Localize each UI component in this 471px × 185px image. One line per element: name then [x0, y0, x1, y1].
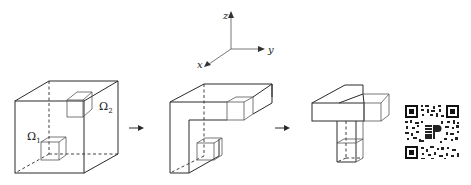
cube-top-face [15, 81, 118, 101]
omega-2-region [67, 92, 92, 117]
arrow-2: → [0, 0, 290, 131]
stage-full-cube: Ω2 Ω1 [15, 81, 118, 173]
stage-reduced-channel [312, 85, 389, 162]
qr-center-logo-icon [424, 124, 442, 140]
channel-inner-edge [189, 120, 227, 173]
hidden-edge [15, 154, 49, 173]
slab-top-face [312, 85, 363, 103]
y-axis-label: y [267, 44, 274, 55]
z-axis-label: z [222, 10, 229, 21]
qr-finder-top-right [446, 105, 459, 118]
z-axis-arrowhead-icon [228, 11, 234, 18]
arrow-1: → [0, 0, 144, 131]
omega-2-region [363, 94, 389, 121]
stage-l-shaped-channel [170, 84, 272, 173]
hidden-edge [170, 156, 204, 173]
coordinate-axes: z y x [197, 10, 274, 70]
qr-code[interactable] [403, 103, 461, 161]
qr-finder-top-left [405, 105, 418, 118]
qr-finder-bottom-left [405, 146, 418, 159]
omega-2-label: Ω2 [99, 100, 113, 115]
omega-2-region [227, 97, 253, 120]
slab-front-face [312, 103, 364, 121]
x-axis [209, 49, 231, 64]
arrow-right-icon [138, 125, 144, 131]
channel-front-left [170, 102, 227, 173]
omega-1-region [337, 139, 363, 143]
hidden-edge [337, 158, 346, 162]
arrow-right-icon [284, 125, 290, 131]
channel-top-back [170, 84, 272, 102]
x-axis-label: x [197, 59, 203, 70]
y-axis-arrowhead-icon [258, 46, 265, 52]
omega-1-region [41, 137, 66, 160]
omega-1-label: Ω1 [27, 130, 41, 145]
x-axis-arrowhead-icon [204, 61, 211, 67]
